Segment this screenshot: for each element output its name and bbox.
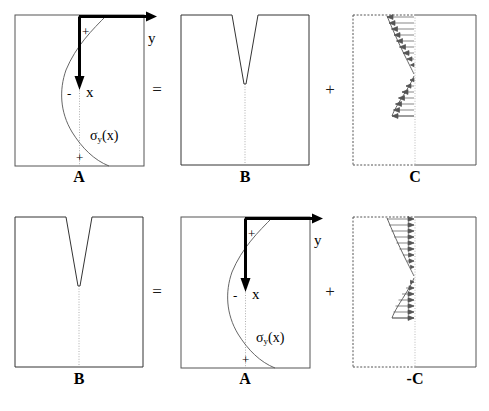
traction-arrow — [396, 304, 415, 309]
traction-arrow — [394, 235, 414, 240]
panel-label-a-bottom: A — [205, 370, 285, 388]
lower-lobe-arrows-reversed — [392, 280, 414, 320]
traction-arrow — [394, 108, 415, 113]
solid-block-outline — [415, 15, 476, 165]
panel-label-c-top: C — [375, 168, 455, 186]
panel-b-top-graphic — [180, 14, 312, 170]
traction-arrow — [410, 78, 414, 82]
traction-arrow — [402, 292, 414, 297]
axis-y-arrowhead — [146, 12, 157, 22]
panel-label-c-bottom: -C — [375, 370, 455, 388]
traction-arrow — [411, 265, 415, 269]
traction-arrow — [397, 241, 415, 246]
sign-plus-bottom: + — [242, 352, 249, 368]
axis-label-y: y — [148, 30, 156, 47]
panel-c-bottom — [352, 216, 477, 368]
traction-arrow — [407, 259, 414, 263]
sigma-glyph: σ — [256, 330, 264, 345]
traction-arrow — [406, 84, 414, 88]
sign-plus-top: + — [248, 226, 255, 242]
operator-equals-bottom: = — [145, 282, 169, 302]
upper-lobe-envelope — [387, 16, 414, 74]
figure-canvas: y x + - + σy(x) A = B + — [0, 0, 489, 411]
panel-label-b-top: B — [205, 168, 285, 186]
operator-equals-top: = — [145, 80, 169, 100]
sigma-argument: (x) — [102, 128, 118, 143]
axis-y-arrowhead — [312, 214, 323, 224]
panel-b-bottom-graphic — [14, 216, 146, 372]
traction-arrow — [392, 27, 415, 32]
traction-arrow — [392, 229, 415, 234]
axis-label-x: x — [252, 286, 260, 303]
panel-label-a-top: A — [39, 168, 119, 186]
panel-b-bottom — [14, 216, 144, 368]
panel-a-top: y x + - + σy(x) — [14, 14, 144, 166]
sigma-glyph: σ — [90, 128, 98, 143]
dashed-block-outline — [353, 217, 415, 367]
traction-arrow — [397, 39, 415, 44]
sigma-argument: (x) — [268, 330, 284, 345]
traction-arrow — [402, 90, 414, 95]
panel-b-top — [180, 14, 310, 166]
axis-label-y: y — [314, 232, 322, 249]
axis-x-arrowhead — [241, 278, 251, 292]
upper-lobe-arrows — [387, 15, 414, 67]
traction-arrow — [389, 21, 414, 26]
axis-label-x: x — [86, 84, 94, 101]
sigma-y-of-x-label: σy(x) — [256, 330, 284, 346]
panel-c-top-graphic — [352, 14, 479, 170]
traction-arrow — [396, 102, 415, 107]
dashed-block-outline — [353, 15, 415, 165]
sign-minus-middle: - — [233, 288, 237, 304]
panel-label-b-bottom: B — [39, 370, 119, 388]
lower-lobe-arrows — [392, 78, 414, 118]
upper-lobe-arrows-reversed — [387, 217, 414, 269]
traction-arrow — [407, 57, 414, 61]
sign-plus-top: + — [82, 24, 89, 40]
traction-arrow — [406, 286, 414, 290]
panel-c-top — [352, 14, 477, 166]
traction-arrow — [394, 310, 415, 315]
traction-arrow — [411, 63, 415, 67]
solid-block-outline — [415, 217, 476, 367]
operator-plus-bottom: + — [318, 282, 342, 302]
traction-arrow — [394, 33, 414, 38]
operator-plus-top: + — [318, 80, 342, 100]
panel-a-bottom: y x + - + σy(x) — [180, 216, 310, 368]
axis-x-arrowhead — [75, 76, 85, 90]
sigma-y-of-x-label: σy(x) — [90, 128, 118, 144]
traction-arrow — [410, 280, 414, 284]
traction-arrow — [389, 223, 414, 228]
panel-c-bottom-graphic — [352, 216, 479, 372]
sign-minus-middle: - — [67, 86, 71, 102]
sign-plus-bottom: + — [76, 150, 83, 166]
